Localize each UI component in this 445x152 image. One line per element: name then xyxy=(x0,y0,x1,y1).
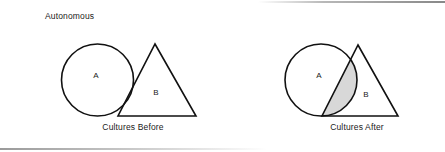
figure-container: Autonomous A B A B Cultures Before Cultu… xyxy=(0,0,445,152)
caption-before: Cultures Before xyxy=(58,122,208,132)
label-b-before: B xyxy=(153,88,158,97)
caption-after: Cultures After xyxy=(282,122,432,132)
panel-after: A B xyxy=(285,44,398,116)
label-a-before: A xyxy=(93,71,99,80)
label-b-after: B xyxy=(363,90,368,99)
label-a-after: A xyxy=(316,71,322,80)
panel-before: A B xyxy=(62,44,197,116)
triangle-b-before xyxy=(118,44,196,116)
overlap-region xyxy=(322,45,398,116)
overlap-fill xyxy=(322,45,398,116)
